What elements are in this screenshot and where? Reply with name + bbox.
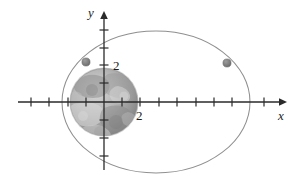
x-axis-label: x [277, 108, 284, 123]
satellite-marker-left [82, 58, 90, 66]
figure-canvas: y x 2 2 [0, 0, 297, 182]
x-axis [18, 98, 287, 107]
earth-sphere [68, 67, 139, 146]
y-tick-label-2: 2 [113, 58, 120, 73]
orbit-diagram: y x 2 2 [0, 0, 297, 182]
satellite-marker-right [223, 59, 231, 67]
y-axis-label: y [86, 5, 94, 20]
x-tick-label-2: 2 [136, 108, 143, 123]
